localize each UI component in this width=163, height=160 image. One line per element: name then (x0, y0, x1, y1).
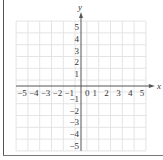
y-tick-label: −4 (69, 129, 79, 139)
y-tick-label: −5 (69, 141, 79, 151)
y-tick-label: −3 (69, 117, 79, 127)
y-axis-label: y (77, 2, 82, 12)
x-axis-label: x (156, 81, 161, 91)
x-tick-label: 5 (140, 88, 145, 98)
x-tick-label: 2 (104, 88, 109, 98)
x-tick-label: 4 (128, 88, 133, 98)
y-tick-label: −2 (69, 106, 79, 116)
y-tick-label: 2 (75, 57, 80, 67)
x-tick-label: −5 (17, 88, 27, 98)
y-axis-arrow-icon (79, 12, 83, 18)
y-tick-label: 1 (75, 69, 80, 79)
y-tick-label: 4 (75, 34, 80, 44)
y-tick-label: 5 (75, 22, 80, 32)
x-tick-label: 1 (93, 88, 98, 98)
x-tick-label: −2 (53, 88, 63, 98)
x-tick-label: −4 (29, 88, 39, 98)
origin-label: 0 (85, 88, 90, 98)
y-tick-label: −1 (69, 94, 79, 104)
y-tick-label: 3 (75, 46, 80, 56)
x-tick-label: 3 (116, 88, 121, 98)
x-axis-arrow-icon (149, 84, 155, 88)
coordinate-plane: xy−5−4−3−2−101234512345−1−2−3−4−5 (0, 0, 163, 160)
x-tick-label: −3 (41, 88, 51, 98)
